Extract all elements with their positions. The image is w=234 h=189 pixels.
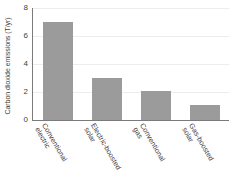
y-tick-label: 8 — [24, 4, 28, 12]
y-axis-title-text: Carbon dioxide emissions (T/yr) — [4, 17, 12, 114]
y-axis-title: Carbon dioxide emissions (T/yr) — [0, 0, 16, 132]
y-tick-label: 2 — [24, 88, 28, 96]
bar-series — [33, 8, 229, 120]
x-tick-label: Conventionalelectric — [32, 122, 68, 167]
bar — [141, 91, 171, 120]
x-axis-tick-labels: ConventionalelectricElectric-boostedsola… — [32, 122, 228, 189]
y-tick-label: 4 — [24, 60, 28, 68]
plot-area — [32, 8, 229, 121]
y-tick-label: 0 — [24, 116, 28, 124]
y-tick-label: 6 — [24, 32, 28, 40]
x-tick-label: Electric-boostedsolar — [81, 122, 122, 176]
bar — [190, 105, 220, 120]
bar — [92, 78, 122, 120]
bar — [43, 22, 73, 120]
bar-chart: Carbon dioxide emissions (T/yr) 02468 Co… — [0, 0, 234, 189]
x-tick-label: Gas-boostedsolar — [179, 122, 214, 167]
x-tick-label: Conventionalgas — [130, 122, 166, 167]
y-axis-tick-labels: 02468 — [16, 8, 30, 120]
